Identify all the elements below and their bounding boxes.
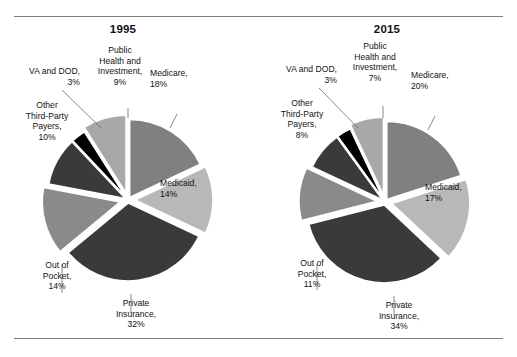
slice-label-out-of-pocket-2015: Out of Pocket, 11% bbox=[277, 258, 347, 290]
slice-label-other-third-party-2015: Other Third-Party Payers, 8% bbox=[263, 98, 341, 140]
leader-medicare-2015 bbox=[428, 116, 435, 130]
bottom-divider-rule bbox=[14, 338, 503, 339]
slice-label-private-insurance-2015: Private Insurance, 34% bbox=[359, 300, 439, 332]
slice-label-medicaid-1995: Medicaid, 14% bbox=[160, 178, 232, 199]
slice-label-medicaid-2015: Medicaid, 17% bbox=[425, 182, 497, 203]
slice-label-medicare-2015: Medicare, 20% bbox=[411, 70, 483, 91]
slice-label-other-third-party-1995: Other Third-Party Payers, 10% bbox=[8, 100, 86, 142]
leader-medicare-1995 bbox=[170, 114, 177, 128]
slice-label-private-insurance-1995: Private Insurance, 32% bbox=[96, 298, 176, 330]
slice-label-medicare-1995: Medicare, 18% bbox=[150, 68, 222, 89]
chart-panel-1995: 1995 Medicare, 18% Medicaid, 14% Private… bbox=[0, 18, 258, 336]
chart-panel-2015: 2015 Medicare, 20% Medicaid, 17% Private… bbox=[259, 18, 517, 336]
slice-label-va-dod-2015: VA and DOD, 3% bbox=[259, 64, 337, 85]
top-divider-rule bbox=[14, 16, 503, 17]
slice-label-out-of-pocket-1995: Out of Pocket, 14% bbox=[22, 260, 92, 292]
slice-label-public-health-1995: Public Health and Investment, 9% bbox=[84, 45, 156, 87]
slice-label-va-dod-1995: VA and DOD, 3% bbox=[0, 66, 80, 87]
slice-label-public-health-2015: Public Health and Investment, 7% bbox=[339, 41, 411, 83]
